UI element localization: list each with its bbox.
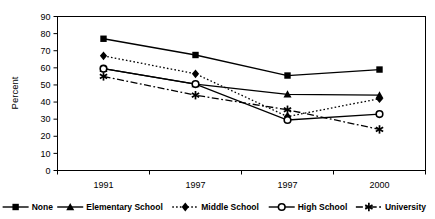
legend-label: Middle School (201, 202, 259, 212)
x-axis-ticks (58, 171, 426, 175)
filled-diamond-marker (182, 203, 189, 212)
y-tick-label: 0 (45, 166, 50, 176)
legend-label: None (32, 202, 54, 212)
x-tick-label: 1997 (185, 180, 205, 190)
chart-figure: 0102030405060708090 1991199719972000 Per… (0, 0, 435, 219)
legend-item-middle-school[interactable]: Middle School (172, 202, 259, 212)
filled-diamond-icon (182, 203, 189, 212)
y-axis-ticks (54, 17, 58, 171)
line-chart: 0102030405060708090 1991199719972000 Per… (0, 0, 435, 219)
legend-item-elementary-school[interactable]: Elementary School (57, 202, 163, 212)
y-tick-label: 90 (40, 12, 50, 22)
x-tick-label: 1997 (277, 180, 297, 190)
x-tick-label: 1991 (93, 180, 113, 190)
y-tick-label: 20 (40, 131, 50, 141)
legend-item-university[interactable]: University (356, 202, 426, 212)
x-axis-tick-labels: 1991199719972000 (93, 180, 389, 190)
legend-label: University (385, 202, 426, 212)
chart-legend: NoneElementary SchoolMiddle SchoolHigh S… (3, 202, 427, 212)
filled-square-marker (376, 66, 382, 72)
filled-square-marker (100, 36, 106, 42)
filled-square-marker (192, 52, 198, 58)
filled-square-icon (12, 204, 18, 210)
open-circle-marker (376, 111, 383, 118)
filled-square-marker (12, 204, 18, 210)
y-tick-label: 30 (40, 114, 50, 124)
y-axis-tick-labels: 0102030405060708090 (40, 12, 50, 176)
open-circle-marker (278, 204, 285, 211)
y-tick-label: 10 (40, 149, 50, 159)
y-axis-title: Percent (9, 76, 20, 109)
y-tick-label: 80 (40, 29, 50, 39)
plot-area-border (58, 17, 426, 171)
legend-label: Elementary School (86, 202, 163, 212)
open-circle-marker (100, 65, 107, 72)
y-tick-label: 40 (40, 97, 50, 107)
open-circle-marker (192, 81, 199, 88)
open-circle-marker (284, 117, 291, 124)
legend-item-high-school[interactable]: High School (269, 202, 348, 212)
legend-label: High School (298, 202, 348, 212)
legend-item-none[interactable]: None (3, 202, 54, 212)
open-circle-icon (278, 204, 285, 211)
y-tick-label: 60 (40, 63, 50, 73)
y-tick-label: 50 (40, 80, 50, 90)
x-tick-label: 2000 (369, 180, 389, 190)
filled-square-marker (284, 72, 290, 78)
y-tick-label: 70 (40, 46, 50, 56)
